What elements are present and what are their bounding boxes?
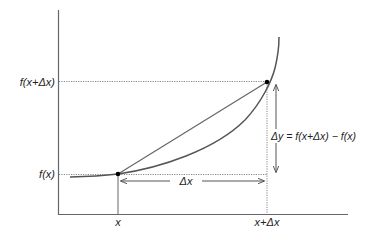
point-a bbox=[116, 172, 121, 177]
label-x: x bbox=[114, 216, 121, 228]
label-x-plus-dx: x+Δx bbox=[254, 216, 280, 228]
point-b bbox=[265, 80, 270, 85]
label-f-x-plus-dx: f(x+Δx) bbox=[20, 76, 56, 88]
secant-line bbox=[118, 82, 267, 174]
label-delta-y: Δy = f(x+Δx) − f(x) bbox=[270, 130, 356, 142]
label-delta-x: Δx bbox=[179, 175, 193, 187]
secant-diagram: f(x+Δx) f(x) x x+Δx Δx Δy = f(x+Δx) − f(… bbox=[0, 0, 369, 241]
label-f-x: f(x) bbox=[39, 168, 55, 180]
function-curve bbox=[70, 37, 279, 177]
